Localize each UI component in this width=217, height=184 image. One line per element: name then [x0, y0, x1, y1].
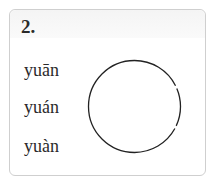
dashed-circle-outline: [89, 61, 181, 153]
answer-circle[interactable]: [0, 0, 217, 184]
